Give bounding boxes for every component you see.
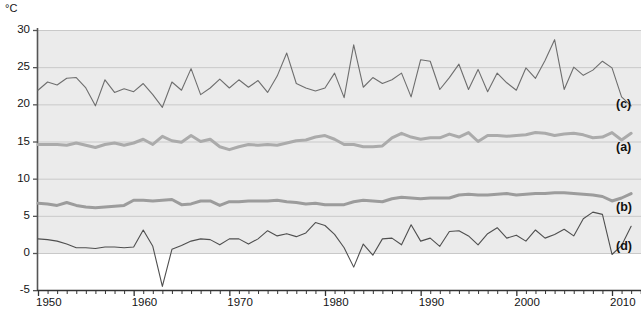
y-axis-tick-label: 20 <box>0 98 30 110</box>
series-label-d: (d) <box>616 239 632 253</box>
x-axis-tick-label: 2000 <box>514 297 540 309</box>
y-axis-unit-label: °C <box>5 2 18 14</box>
y-axis-tick-label: 25 <box>0 61 30 73</box>
y-tick-marks <box>33 31 37 291</box>
x-axis-tick-label: 1970 <box>227 297 253 309</box>
series-label-b: (b) <box>616 200 632 214</box>
series-label-c: (c) <box>616 97 631 111</box>
y-axis-tick-label: 10 <box>0 173 30 185</box>
y-axis-tick-label: 0 <box>0 247 30 259</box>
y-axis-tick-label: 15 <box>0 136 30 148</box>
x-axis-tick-label: 1960 <box>132 297 158 309</box>
y-axis-tick-label: 5 <box>0 210 30 222</box>
x-axis-tick-label: 1980 <box>323 297 349 309</box>
series-label-a: (a) <box>616 140 631 154</box>
x-axis-tick-label: 2010 <box>610 297 636 309</box>
temperature-line-chart: 302520151050-519501960197019801990200020… <box>0 0 641 309</box>
x-axis-tick-label: 1990 <box>419 297 445 309</box>
y-axis-tick-label: -5 <box>0 284 30 296</box>
x-axis-tick-label: 1950 <box>36 297 62 309</box>
y-axis-tick-label: 30 <box>0 24 30 36</box>
chart-canvas <box>0 0 641 309</box>
